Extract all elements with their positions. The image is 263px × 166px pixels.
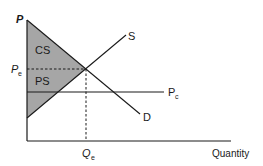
x-axis-label: Quantity <box>212 148 249 159</box>
equilibrium-price-label: P e <box>11 63 22 77</box>
svg-text:e: e <box>91 154 95 161</box>
svg-text:e: e <box>18 70 22 77</box>
svg-text:Q: Q <box>82 147 91 159</box>
demand-label: D <box>143 111 151 123</box>
producer-surplus-label: PS <box>35 75 50 87</box>
ceiling-price-label: P c <box>168 86 179 100</box>
supply-label: S <box>128 30 135 42</box>
svg-text:c: c <box>175 93 179 100</box>
consumer-surplus-label: CS <box>35 44 50 56</box>
supply-demand-diagram: P CS PS P e P c S D Q e Quantity <box>0 0 263 166</box>
y-axis-label: P <box>16 13 24 25</box>
equilibrium-quantity-label: Q e <box>82 147 95 161</box>
